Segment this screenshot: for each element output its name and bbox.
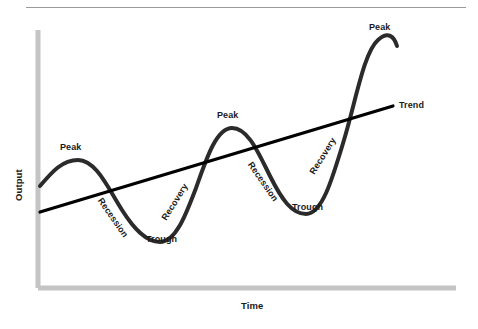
label-trough-1: Trough <box>146 234 177 244</box>
business-cycle-curve <box>40 35 397 242</box>
y-axis-title: Output <box>13 169 24 201</box>
label-peak-2: Peak <box>217 110 238 120</box>
label-trough-2: Trough <box>292 202 323 212</box>
x-axis-title: Time <box>241 300 263 311</box>
business-cycle-figure: Output Time Peak Recession Trough Recove… <box>0 0 478 329</box>
label-peak-1: Peak <box>60 142 81 152</box>
label-peak-3: Peak <box>369 22 390 32</box>
label-trend: Trend <box>399 100 424 110</box>
cycle-plot-svg <box>0 0 478 329</box>
